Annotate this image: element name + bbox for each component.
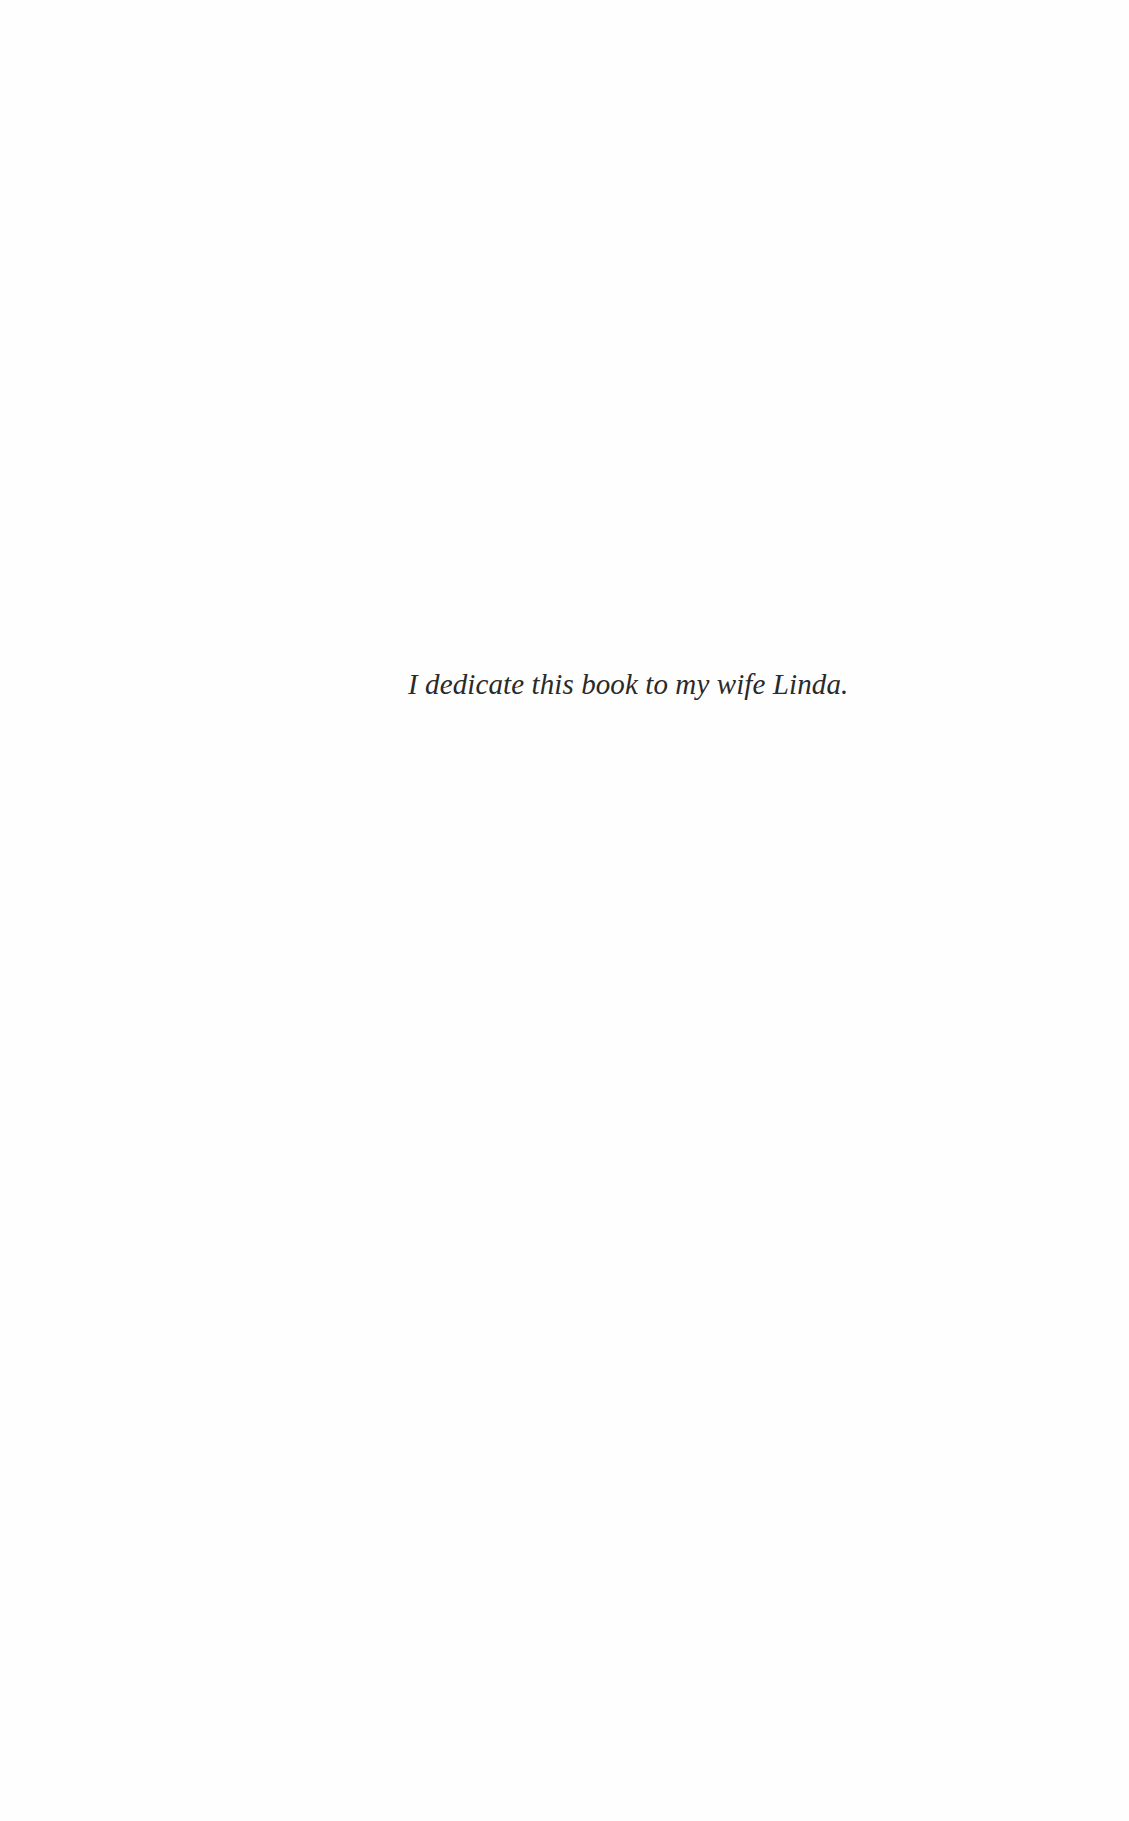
book-page: I dedicate this book to my wife Linda. [0, 0, 1129, 1821]
dedication-text: I dedicate this book to my wife Linda. [408, 666, 848, 702]
